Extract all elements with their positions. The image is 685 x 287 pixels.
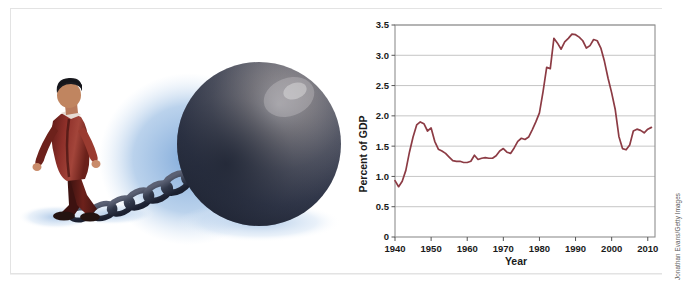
man-front-hand: [92, 160, 101, 168]
y-tick-label-0: 0: [384, 231, 389, 242]
chart-x-axis-title: Year: [505, 255, 527, 267]
chart-panel: 00.51.01.52.02.53.03.5 19401950196019701…: [356, 9, 662, 273]
y-tick-label-2.5: 2.5: [376, 80, 390, 91]
x-tick-label-1950: 1950: [421, 243, 442, 254]
iron-ball-shading: [177, 62, 341, 226]
figure-root: 00.51.01.52.02.53.03.5 19401950196019701…: [0, 0, 685, 287]
chart-background: [356, 9, 662, 273]
y-tick-label-1.5: 1.5: [376, 141, 390, 152]
y-tick-label-1.0: 1.0: [376, 171, 389, 182]
image-credit: Jonathan Evans/Getty Images: [672, 268, 685, 280]
x-tick-label-1940: 1940: [384, 243, 405, 254]
x-tick-label-1970: 1970: [493, 243, 514, 254]
man-back-shoe: [53, 212, 75, 221]
y-tick-label-0.5: 0.5: [376, 201, 390, 212]
man-front-shoe: [80, 213, 100, 222]
illustration-panel: [11, 9, 356, 273]
y-tick-label-3.0: 3.0: [376, 50, 389, 61]
y-tick-label-2.0: 2.0: [376, 110, 389, 121]
x-tick-label-1980: 1980: [529, 243, 550, 254]
chart-y-axis-title: Percent of GDP: [357, 115, 369, 192]
percent-of-gdp-line-chart: 00.51.01.52.02.53.03.5 19401950196019701…: [356, 9, 662, 273]
x-tick-label-2000: 2000: [601, 243, 622, 254]
y-tick-label-3.5: 3.5: [376, 19, 390, 30]
man-back-hand: [33, 163, 42, 171]
x-tick-label-1990: 1990: [565, 243, 586, 254]
x-tick-label-2010: 2010: [637, 243, 658, 254]
x-tick-label-1960: 1960: [457, 243, 478, 254]
ball-and-chain-illustration: [11, 9, 356, 273]
